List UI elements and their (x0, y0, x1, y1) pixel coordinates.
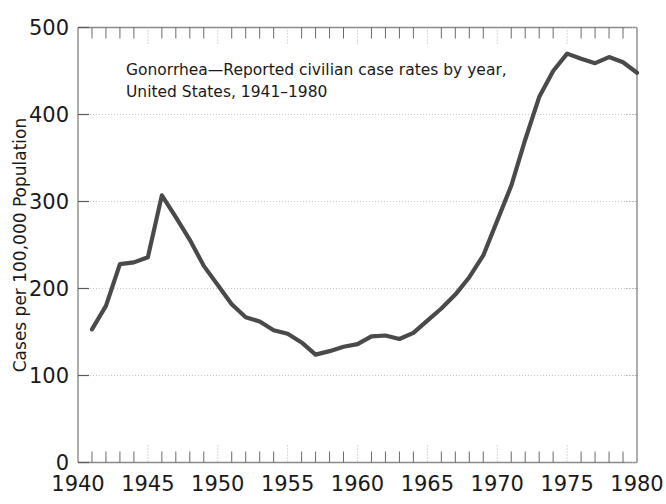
y-tick-label: 0 (56, 451, 69, 475)
x-tick-label: 1965 (401, 472, 454, 496)
x-axis-tick-labels: 194019451950195519601965197019751980 (51, 472, 663, 496)
y-tick-label: 100 (29, 364, 69, 388)
y-tick-label: 400 (29, 103, 69, 127)
x-tick-label: 1955 (261, 472, 314, 496)
x-tick-label: 1940 (51, 472, 104, 496)
x-tick-label: 1975 (540, 472, 593, 496)
x-tick-label: 1945 (121, 472, 174, 496)
y-axis-title: Cases per 100,000 Population (10, 118, 30, 373)
x-tick-label: 1960 (331, 472, 384, 496)
chart-title-line-2: United States, 1941–1980 (126, 83, 327, 101)
chart-title-line-1: Gonorrhea—Reported civilian case rates b… (126, 61, 507, 79)
chart-figure: 194019451950195519601965197019751980 010… (0, 0, 666, 504)
x-tick-label: 1950 (191, 472, 244, 496)
y-tick-label: 300 (29, 190, 69, 214)
y-tick-label: 500 (29, 16, 69, 40)
x-tick-label: 1970 (471, 472, 524, 496)
x-tick-label: 1980 (610, 472, 663, 496)
gonorrhea-case-rate-line-chart: 194019451950195519601965197019751980 010… (0, 0, 666, 504)
y-tick-label: 200 (29, 277, 69, 301)
